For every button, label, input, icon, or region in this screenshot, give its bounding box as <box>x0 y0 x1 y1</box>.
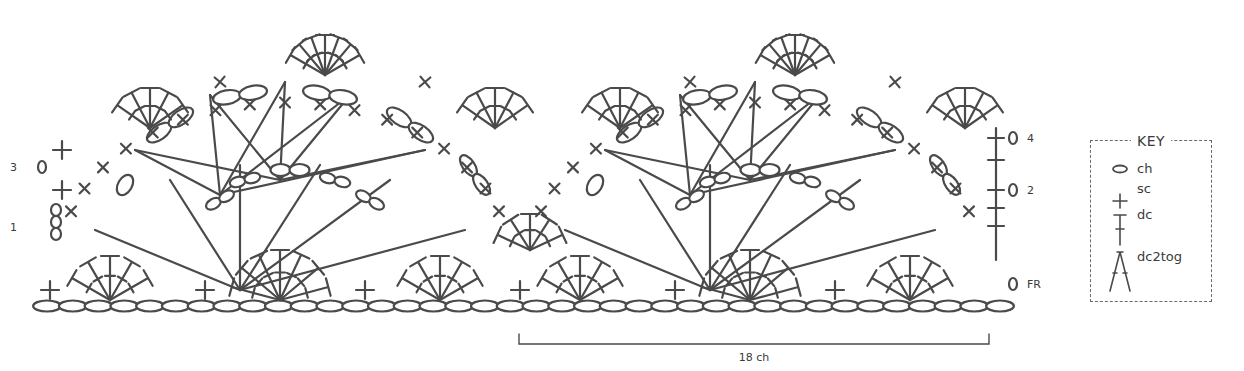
dc-stitch <box>521 214 539 250</box>
chain-stitch <box>85 301 113 312</box>
chain-stitch <box>445 301 473 312</box>
dc-stitch <box>431 256 449 300</box>
oval-icon <box>1107 159 1133 185</box>
chain-stitch <box>780 301 808 312</box>
dc-stitch <box>956 88 974 128</box>
chain-stitch <box>162 301 190 312</box>
chain-stitch <box>394 301 422 312</box>
chain-stitch <box>986 301 1014 312</box>
sc-stitch <box>511 281 529 299</box>
chain-stitch <box>883 301 911 312</box>
chain-group <box>302 83 358 106</box>
dc-stitch <box>457 98 500 136</box>
chain-stitch <box>909 301 937 312</box>
key-row-dc2tog: dc2tog <box>1091 249 1211 269</box>
sc-stitch <box>93 158 113 178</box>
chain-stitch <box>806 301 834 312</box>
row-label: 4 <box>1027 132 1034 145</box>
chain-stitch <box>188 301 216 312</box>
dc-stitch <box>611 88 629 128</box>
sc-stitch <box>116 139 136 159</box>
chain-stitch <box>471 301 499 312</box>
chain-stitch <box>368 301 396 312</box>
crochet-chart: 3142FR 18 ch <box>0 0 1244 371</box>
dc-stitch <box>141 88 159 128</box>
key-title: KEY <box>1091 131 1211 150</box>
dc2tog-leg <box>135 150 220 195</box>
dc-stitch <box>901 256 919 300</box>
chain-stitch <box>651 301 679 312</box>
stitch-symbols <box>41 34 1003 308</box>
repeat-bracket: 18 ch <box>519 334 989 364</box>
chain-group <box>212 83 268 106</box>
dc-stitch <box>927 98 970 136</box>
row-label: 1 <box>10 221 17 234</box>
dc-stitch <box>741 250 759 300</box>
sc-stitch <box>61 201 81 221</box>
chain-stitch <box>857 301 885 312</box>
sc-stitch <box>680 72 700 92</box>
chain-stitch <box>677 301 705 312</box>
chain-stitch <box>342 301 370 312</box>
chain-stitch <box>136 301 164 312</box>
sc-stitch <box>53 141 71 159</box>
dc-stitch <box>486 88 504 128</box>
sc-stitch <box>434 139 454 159</box>
chain-stitch <box>110 301 138 312</box>
dc-stitch <box>526 227 566 259</box>
chain-stitch <box>960 301 988 312</box>
sc-stitch <box>415 72 435 92</box>
plus-icon <box>1107 187 1133 213</box>
row-label: FR <box>1027 278 1041 291</box>
sc-stitch <box>904 139 924 159</box>
sc-stitch <box>885 72 905 92</box>
sc-stitch <box>563 158 583 178</box>
chain-group <box>319 171 352 189</box>
sc-stitch <box>356 281 374 299</box>
chain-stitch <box>754 301 782 312</box>
chain-stitch <box>497 301 525 312</box>
sc-stitch <box>586 139 606 159</box>
chain-stitch <box>239 301 267 312</box>
chain-stitch <box>523 301 551 312</box>
chain-group <box>682 83 738 106</box>
chain-group <box>354 188 386 212</box>
sc-stitch <box>959 201 979 221</box>
sc-stitch <box>196 281 214 299</box>
chain-group <box>824 188 856 212</box>
dc2tog-leg <box>565 230 710 290</box>
sc-stitch <box>545 179 565 199</box>
sc-stitch <box>826 281 844 299</box>
key-row-sc: sc <box>1091 187 1211 207</box>
key-row-dc: dc <box>1091 211 1211 231</box>
chain-stitch <box>316 301 344 312</box>
chain-stitch <box>59 301 87 312</box>
dc-stitch <box>101 256 119 300</box>
chain-stitch <box>832 301 860 312</box>
chain-stitch <box>265 301 293 312</box>
chain-group <box>583 172 606 198</box>
chain-stitch <box>935 301 963 312</box>
chain-group <box>271 164 310 176</box>
dc-icon <box>1107 211 1133 247</box>
sc-stitch <box>53 181 71 199</box>
repeat-label: 18 ch <box>739 351 770 364</box>
sc-stitch <box>489 201 509 221</box>
dc2tog-leg <box>605 150 690 195</box>
dc-stitch <box>490 98 533 136</box>
sc-stitch <box>210 72 230 92</box>
dc-stitch <box>571 256 589 300</box>
key-row-ch: ch <box>1091 159 1211 179</box>
sc-stitch <box>666 281 684 299</box>
row-label: 3 <box>10 161 17 174</box>
chain-group <box>772 83 828 106</box>
chain-stitch <box>600 301 628 312</box>
chain-stitch <box>291 301 319 312</box>
chain-group <box>789 171 822 189</box>
chain-stitch <box>574 301 602 312</box>
chain-stitch <box>33 301 61 312</box>
chain-group <box>113 172 136 198</box>
chain-group <box>741 164 780 176</box>
chain-stitch <box>703 301 731 312</box>
chain-stitch <box>548 301 576 312</box>
